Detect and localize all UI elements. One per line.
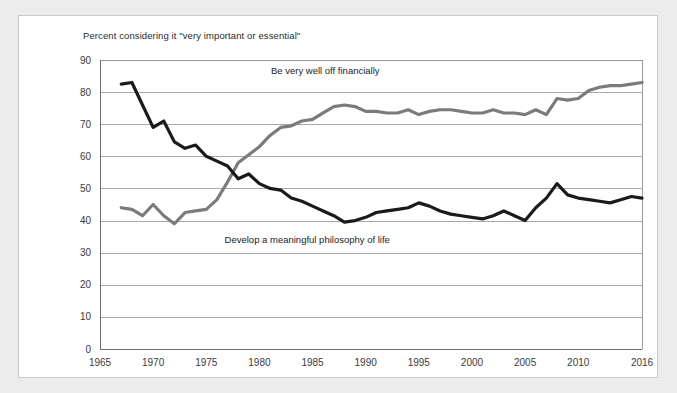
y-axis-tick-label: 70 — [80, 119, 92, 130]
y-axis-tick-label: 50 — [80, 183, 92, 194]
series-label-2: Develop a meaningful philosophy of life — [225, 234, 390, 245]
x-axis-tick-label: 1975 — [195, 357, 218, 368]
y-axis-tick-label: 80 — [80, 87, 92, 98]
x-axis-tick-label: 2016 — [631, 357, 654, 368]
y-axis-tick-label: 40 — [80, 215, 92, 226]
axes — [100, 60, 643, 350]
y-axis-tick-label: 90 — [80, 55, 92, 66]
y-axis-tick-labels: 0102030405060708090 — [80, 55, 92, 355]
series-line-1 — [121, 82, 642, 223]
x-axis-tick-label: 1980 — [248, 357, 271, 368]
y-axis-tick-label: 60 — [80, 151, 92, 162]
y-axis-tick-label: 10 — [80, 311, 92, 322]
x-axis-tick-label: 2010 — [567, 357, 590, 368]
data-series — [121, 82, 642, 223]
x-axis-tick-label: 1995 — [408, 357, 431, 368]
y-axis-tick-label: 30 — [80, 247, 92, 258]
series-label-1: Be very well off financially — [271, 65, 380, 76]
y-axis-tick-label: 0 — [85, 344, 91, 355]
x-axis-tick-label: 1965 — [89, 357, 112, 368]
x-axis-tick-labels: 1965197019751980198519901995200020052010… — [89, 357, 654, 368]
figure-card: Percent considering it "very important o… — [18, 15, 658, 378]
series-line-2 — [121, 82, 642, 222]
x-axis-tick-label: 1990 — [355, 357, 378, 368]
x-axis-tick-label: 2005 — [514, 357, 537, 368]
x-axis-tick-label: 2000 — [461, 357, 484, 368]
x-axis-tick-label: 1985 — [301, 357, 324, 368]
y-axis-tick-label: 20 — [80, 279, 92, 290]
x-axis-tick-label: 1970 — [142, 357, 165, 368]
line-chart: 0102030405060708090 19651970197519801985… — [19, 16, 659, 379]
